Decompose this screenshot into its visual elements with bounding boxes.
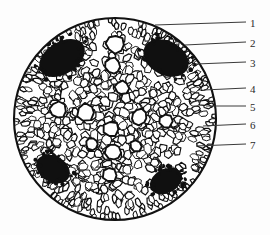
label-number-3: 3 [250, 58, 256, 69]
label-number-1: 1 [250, 18, 256, 29]
cell [108, 16, 112, 23]
large-vessel [105, 58, 120, 74]
cell [202, 136, 210, 141]
large-vessel [132, 109, 146, 126]
leader-line-3 [196, 62, 246, 64]
cell [79, 163, 88, 170]
label-number-2: 2 [250, 38, 256, 49]
cross-section-illustration [0, 0, 270, 235]
cell [80, 79, 88, 88]
cell [105, 206, 110, 214]
large-vessel [159, 115, 172, 128]
cell [150, 89, 157, 98]
large-vessel [105, 145, 121, 160]
figure-canvas: 1234567 [0, 0, 270, 235]
large-vessel [104, 122, 119, 136]
cell [25, 132, 35, 137]
cell [128, 27, 134, 35]
cell [46, 139, 52, 147]
cell [123, 165, 131, 174]
cell [114, 22, 119, 29]
cell [34, 121, 41, 129]
cell [137, 71, 143, 82]
cell-mesh-group [0, 0, 270, 235]
cell [199, 130, 208, 135]
label-number-6: 6 [250, 120, 256, 131]
large-vessel [86, 138, 97, 150]
label-number-5: 5 [250, 102, 256, 113]
label-number-7: 7 [250, 140, 256, 151]
label-number-4: 4 [250, 84, 256, 95]
leader-line-2 [185, 42, 246, 45]
leader-line-1 [155, 22, 246, 25]
cell [28, 100, 37, 105]
large-vessel [131, 140, 142, 151]
cell [87, 151, 95, 158]
large-vessel [103, 168, 117, 181]
